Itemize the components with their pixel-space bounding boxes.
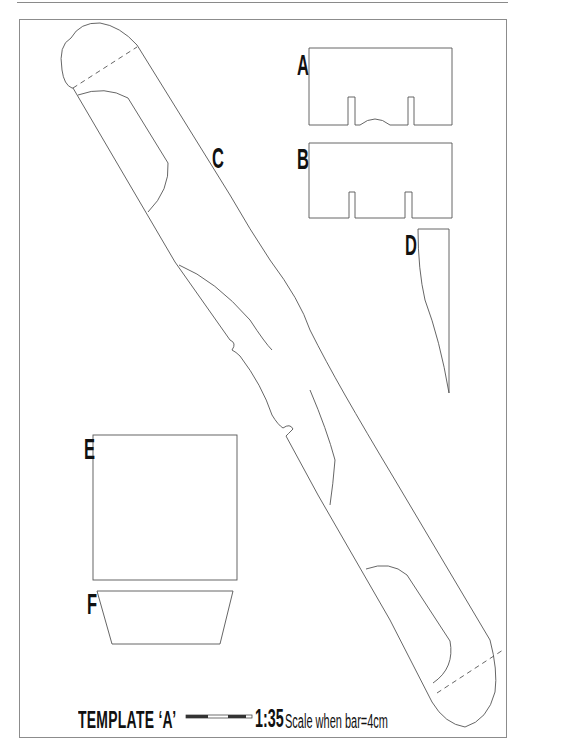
piece-a-outline <box>309 48 452 125</box>
piece-b-outline <box>309 143 452 218</box>
scale-ratio: 1:35 <box>255 705 284 731</box>
template-drawing <box>0 0 584 749</box>
piece-c-outline <box>61 23 503 727</box>
label-piece-d: D <box>405 230 417 260</box>
piece-e-outline <box>93 435 237 580</box>
scale-bar <box>186 715 252 718</box>
scale-note: Scale when bar=4cm <box>285 711 388 731</box>
piece-d-outline <box>418 229 449 393</box>
label-piece-b: B <box>297 144 309 174</box>
label-piece-c: C <box>212 143 224 173</box>
template-title: TEMPLATE ‘A’ <box>78 708 176 732</box>
label-piece-e: E <box>84 434 95 464</box>
label-piece-f: F <box>87 589 97 619</box>
piece-f-outline <box>97 591 233 644</box>
label-piece-a: A <box>297 50 309 80</box>
